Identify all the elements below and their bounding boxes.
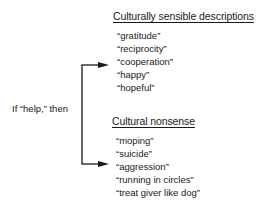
list-item: “reciprocity” [117, 42, 173, 55]
list-item: “suicide” [116, 147, 200, 160]
sensible-list: “gratitude” “reciprocity” “cooperation” … [117, 29, 173, 94]
list-item: “moping” [116, 134, 200, 147]
list-item: “treat giver like dog” [116, 186, 200, 199]
sensible-heading: Culturally sensible descriptions [113, 10, 254, 22]
list-item: “running in circles” [116, 173, 200, 186]
list-item: “happy” [117, 68, 173, 81]
list-item: “hopeful” [117, 81, 173, 94]
list-item: “cooperation” [117, 55, 173, 68]
list-item: “aggression” [116, 160, 200, 173]
arrow-top-icon [98, 62, 109, 68]
nonsense-list: “moping” “suicide” “aggression” “running… [116, 134, 200, 199]
list-item: “gratitude” [117, 29, 173, 42]
nonsense-heading: Cultural nonsense [112, 115, 195, 127]
arrow-bottom-icon [98, 161, 109, 167]
